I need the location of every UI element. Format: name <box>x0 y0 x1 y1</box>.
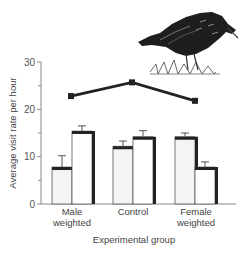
line-point-marker <box>68 93 74 99</box>
x-category-label: weighted <box>176 217 215 228</box>
x-category-label: Control <box>118 206 149 217</box>
y-tick-label: 0 <box>29 199 35 210</box>
bar <box>133 131 155 204</box>
bar <box>195 162 217 204</box>
chart: 0102030 MaleweightedControlFemaleweighte… <box>0 0 245 256</box>
x-category-label: Female <box>180 206 212 217</box>
x-category-label: weighted <box>52 217 91 228</box>
x-axis-title: Experimental group <box>93 234 175 245</box>
total-line <box>68 79 198 103</box>
y-tick-label: 10 <box>24 151 36 162</box>
line-point-marker <box>192 98 198 104</box>
starling-illustration-icon <box>138 12 238 74</box>
y-tick-label: 20 <box>24 104 36 115</box>
bar <box>113 141 135 204</box>
y-tick-label: 30 <box>24 57 36 68</box>
bars <box>52 126 217 204</box>
bar <box>175 133 197 204</box>
line-point-marker <box>129 79 135 85</box>
y-axis-title: Average visit rate per hour <box>7 77 18 188</box>
bar <box>72 126 94 204</box>
bar <box>52 156 74 204</box>
x-axis-labels: MaleweightedControlFemaleweighted <box>52 206 215 228</box>
x-category-label: Male <box>62 206 83 217</box>
